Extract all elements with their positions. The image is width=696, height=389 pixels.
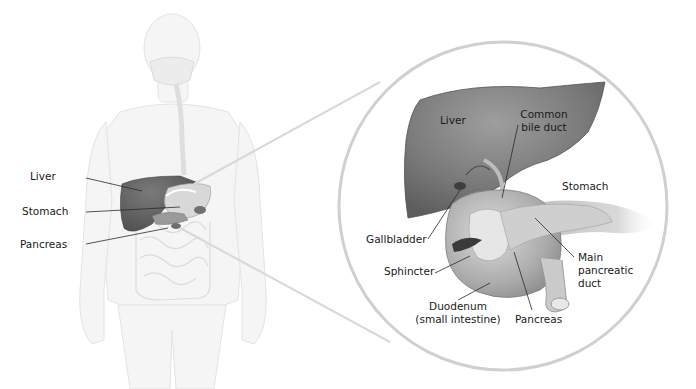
- label-detail-liver: Liver: [440, 114, 466, 127]
- label-common-bile-duct-line1: Common: [512, 108, 576, 121]
- label-body-liver: Liver: [30, 170, 56, 183]
- label-body-pancreas: Pancreas: [20, 238, 67, 251]
- label-duodenum: Duodenum (small intestine): [412, 300, 504, 326]
- label-body-stomach: Stomach: [22, 205, 68, 218]
- label-main-pancreatic-duct-line3: duct: [578, 277, 633, 290]
- detail-gallbladder: [454, 182, 466, 190]
- label-duodenum-line1: Duodenum: [412, 300, 504, 313]
- label-main-pancreatic-duct-line1: Main: [578, 251, 633, 264]
- body-spleen: [194, 206, 206, 214]
- label-gallbladder: Gallbladder: [366, 233, 427, 246]
- label-common-bile-duct-line2: bile duct: [512, 121, 576, 134]
- label-main-pancreatic-duct: Main pancreatic duct: [578, 251, 633, 290]
- label-main-pancreatic-duct-line2: pancreatic: [578, 264, 633, 277]
- label-common-bile-duct: Common bile duct: [512, 108, 576, 134]
- label-detail-pancreas: Pancreas: [515, 313, 562, 326]
- mouth-region: [150, 57, 194, 85]
- label-sphincter: Sphincter: [384, 265, 434, 278]
- diagram-stage: Liver Stomach Pancreas Liver Common bile…: [0, 0, 696, 389]
- anatomy-illustration: [0, 0, 696, 389]
- label-detail-stomach: Stomach: [562, 180, 608, 193]
- label-duodenum-line2: (small intestine): [412, 313, 504, 326]
